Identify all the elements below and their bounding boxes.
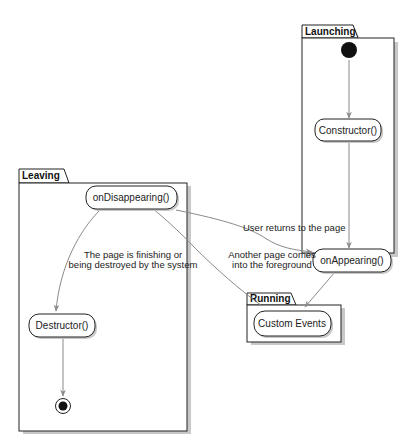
edge-label-user-returns: User returns to the page [243,222,345,233]
state-custom-events-label: Custom Events [258,318,326,329]
state-on-appearing[interactable]: onAppearing() [313,249,393,274]
initial-state-icon [341,42,357,58]
final-state-icon [56,399,71,414]
state-destructor[interactable]: Destructor() [29,314,97,339]
edge-onappearing-to-running [305,272,335,307]
package-launching-label: Launching [305,26,356,37]
state-constructor[interactable]: Constructor() [315,119,383,143]
state-on-disappearing-label: onDisappearing() [93,192,170,203]
edge-label-another-page-line2: into the foreground [232,259,312,270]
package-running-label: Running [250,293,291,304]
state-custom-events[interactable]: Custom Events [254,311,333,338]
state-on-appearing-label: onAppearing() [320,255,383,266]
state-destructor-label: Destructor() [36,320,89,331]
state-on-disappearing[interactable]: onDisappearing() [86,186,179,211]
package-leaving-label: Leaving [22,170,60,181]
state-constructor-label: Constructor() [319,125,377,136]
edge-label-finishing-line2: being destroyed by the system [69,259,198,270]
